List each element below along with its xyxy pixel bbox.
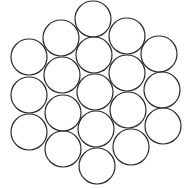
wire-circle (79, 148, 115, 184)
wire-circle (109, 55, 145, 91)
wire-circle (11, 39, 47, 75)
wire-circle (76, 37, 112, 73)
wire-circle (78, 111, 114, 147)
wire-circle (144, 72, 180, 108)
wire-circle (11, 77, 47, 113)
wire-circle (110, 92, 146, 128)
wire-circles-group (11, 1, 181, 184)
wire-circle (11, 114, 47, 150)
wire-circle (43, 20, 79, 56)
wire-circle (45, 95, 81, 131)
wire-circle (113, 129, 149, 165)
wire-circle (77, 74, 113, 110)
wire-circle (109, 18, 145, 54)
wire-circle (141, 36, 177, 72)
wire-circle (75, 1, 111, 37)
strand-cross-section-diagram (0, 0, 187, 188)
wire-circle (45, 131, 81, 167)
wire-circle (145, 108, 181, 144)
wire-circle (44, 57, 80, 93)
